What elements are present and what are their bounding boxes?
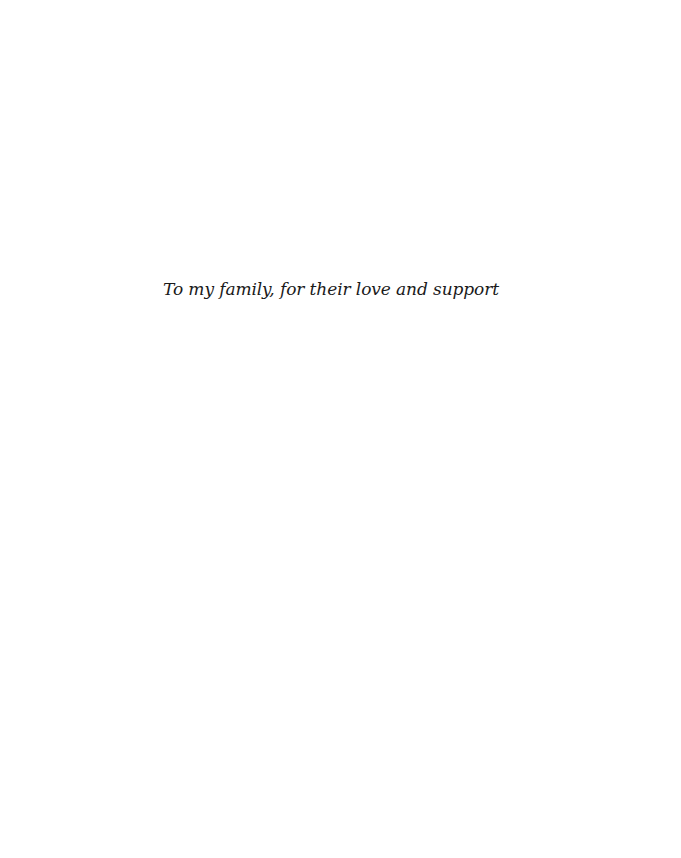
- dedication-text: To my family, for their love and support: [163, 279, 499, 299]
- document-page: To my family, for their love and support: [0, 0, 681, 858]
